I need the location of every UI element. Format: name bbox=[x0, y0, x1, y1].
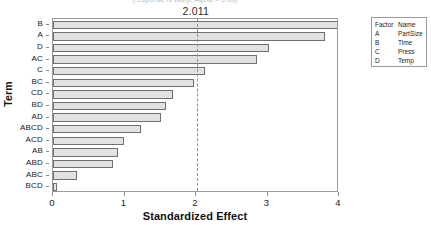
legend-row-B: BTime bbox=[372, 38, 426, 47]
y-tick-ABD: ABD bbox=[26, 159, 43, 167]
legend-factor-C: C bbox=[375, 47, 398, 56]
y-tick-mark bbox=[46, 140, 49, 141]
bar-ABC bbox=[53, 171, 77, 180]
y-tick-mark bbox=[46, 47, 49, 48]
y-tick-C: C bbox=[37, 66, 43, 74]
legend-name-A: PartSize bbox=[398, 29, 423, 38]
bar-D bbox=[53, 44, 269, 53]
legend-row-C: CPress bbox=[372, 47, 426, 56]
bar-ABCD bbox=[53, 125, 141, 134]
x-tick-mark bbox=[52, 192, 53, 196]
plot-area bbox=[52, 18, 338, 192]
x-tick-label: 0 bbox=[49, 197, 54, 208]
x-axis: 01234 Standardized Effect bbox=[52, 192, 338, 225]
legend-header-row: Factor Name bbox=[372, 20, 426, 29]
x-tick-label: 2 bbox=[192, 197, 197, 208]
y-tick-mark bbox=[46, 128, 49, 129]
x-tick-mark bbox=[195, 192, 196, 196]
bar-BC bbox=[53, 79, 194, 88]
y-tick-CD: CD bbox=[31, 89, 43, 97]
x-tick-mark bbox=[267, 192, 268, 196]
bar-CD bbox=[53, 90, 173, 99]
legend-factor-A: A bbox=[375, 29, 398, 38]
legend-factor-B: B bbox=[375, 38, 398, 47]
pareto-chart: (response is Warp, Alpha = 0.05) 2.011 B… bbox=[0, 0, 431, 225]
bar-AB bbox=[53, 148, 118, 157]
x-axis-title: Standardized Effect bbox=[52, 210, 338, 222]
y-axis-title: Term bbox=[2, 74, 14, 114]
legend-header-name: Name bbox=[398, 20, 415, 29]
bar-A bbox=[53, 32, 325, 41]
legend-factor-D: D bbox=[375, 56, 398, 65]
y-tick-ABCD: ABCD bbox=[20, 124, 43, 132]
bar-AD bbox=[53, 113, 161, 122]
legend-name-C: Press bbox=[398, 47, 415, 56]
y-tick-mark bbox=[46, 59, 49, 60]
y-tick-BD: BD bbox=[31, 101, 43, 109]
x-tick-label: 4 bbox=[335, 197, 340, 208]
y-tick-AB: AB bbox=[32, 147, 43, 155]
legend-row-D: DTemp bbox=[372, 56, 426, 65]
x-tick-label: 1 bbox=[121, 197, 126, 208]
y-tick-BC: BC bbox=[31, 78, 43, 86]
legend-header-factor: Factor bbox=[375, 20, 398, 29]
y-tick-BCD: BCD bbox=[26, 182, 44, 190]
y-tick-mark bbox=[46, 186, 49, 187]
bar-AC bbox=[53, 55, 257, 64]
factor-legend: Factor Name APartSizeBTimeCPressDTemp bbox=[371, 17, 427, 67]
x-tick-mark bbox=[338, 192, 339, 196]
bar-ABD bbox=[53, 160, 113, 169]
bars-layer bbox=[53, 19, 337, 191]
y-tick-mark bbox=[46, 151, 49, 152]
y-tick-mark bbox=[46, 105, 49, 106]
bar-BD bbox=[53, 102, 166, 111]
reference-line bbox=[197, 19, 198, 191]
x-tick-mark bbox=[124, 192, 125, 196]
y-tick-mark bbox=[46, 82, 49, 83]
bar-BCD bbox=[53, 183, 57, 192]
y-tick-mark bbox=[46, 35, 49, 36]
y-tick-B: B bbox=[37, 20, 43, 28]
chart-subtitle: (response is Warp, Alpha = 0.05) bbox=[0, 0, 370, 3]
y-tick-D: D bbox=[37, 43, 43, 51]
bar-B bbox=[53, 21, 338, 30]
y-tick-mark bbox=[46, 24, 49, 25]
x-tick-label: 3 bbox=[264, 197, 269, 208]
y-tick-mark bbox=[46, 163, 49, 164]
y-tick-AD: AD bbox=[31, 113, 43, 121]
y-tick-A: A bbox=[37, 31, 43, 39]
legend-name-B: Time bbox=[398, 38, 412, 47]
y-tick-ABC: ABC bbox=[26, 171, 43, 179]
y-tick-mark bbox=[46, 93, 49, 94]
legend-rows: APartSizeBTimeCPressDTemp bbox=[372, 29, 426, 65]
y-tick-mark bbox=[46, 117, 49, 118]
reference-line-label: 2.011 bbox=[183, 5, 210, 17]
legend-row-A: APartSize bbox=[372, 29, 426, 38]
bar-ACD bbox=[53, 137, 124, 146]
legend-name-D: Temp bbox=[398, 56, 414, 65]
y-tick-ACD: ACD bbox=[26, 136, 44, 144]
y-tick-mark bbox=[46, 175, 49, 176]
bar-C bbox=[53, 67, 205, 76]
y-tick-mark bbox=[46, 70, 49, 71]
y-tick-AC: AC bbox=[31, 55, 43, 63]
